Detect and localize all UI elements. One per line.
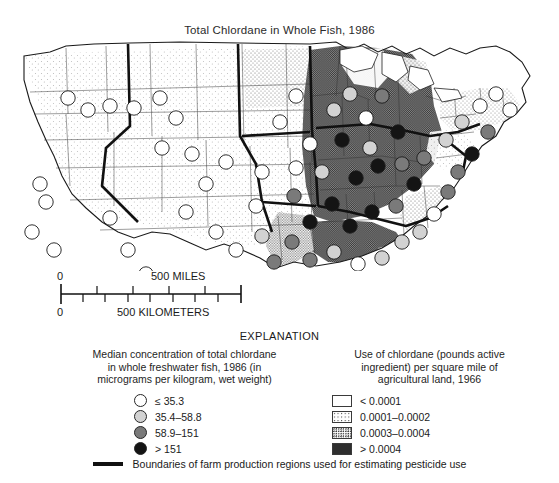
use-pattern-swatch bbox=[332, 443, 352, 455]
concentration-class-label: 35.4–58.8 bbox=[155, 411, 202, 424]
use-pattern-swatch bbox=[332, 427, 352, 439]
scale-km-label: 500 KILOMETERS bbox=[117, 306, 209, 318]
fish-sample-site bbox=[179, 205, 193, 219]
legend-use-row: 0.0001–0.0002 bbox=[322, 409, 537, 425]
fish-sample-site bbox=[363, 141, 377, 155]
fish-sample-site bbox=[169, 111, 183, 125]
fish-sample-site bbox=[343, 219, 357, 233]
legend-concentration-heading-line1: Median concentration of total chlordane bbox=[62, 348, 307, 361]
legend-concentration-heading: Median concentration of total chlordane … bbox=[62, 348, 307, 386]
fish-sample-site bbox=[365, 205, 379, 219]
fish-sample-site bbox=[465, 147, 479, 161]
fish-sample-site bbox=[325, 197, 339, 211]
map-title: Total Chlordane in Whole Fish, 1986 bbox=[0, 24, 559, 36]
fish-sample-site bbox=[439, 133, 453, 147]
fish-sample-site bbox=[287, 189, 301, 203]
fish-sample-site bbox=[199, 177, 213, 191]
fish-sample-site bbox=[33, 177, 47, 191]
fish-sample-site bbox=[47, 243, 61, 257]
fish-sample-site bbox=[103, 211, 117, 225]
fish-sample-site bbox=[255, 165, 269, 179]
fish-sample-site bbox=[451, 165, 465, 179]
fish-sample-site bbox=[489, 87, 503, 101]
fish-sample-site bbox=[185, 147, 199, 161]
legend-concentration-heading-line3: micrograms per kilogram, wet weight) bbox=[62, 373, 307, 386]
us-map bbox=[10, 36, 549, 271]
fish-sample-site bbox=[303, 215, 317, 229]
fish-sample-site bbox=[375, 251, 389, 265]
use-class-label: < 0.0001 bbox=[360, 395, 401, 408]
fish-sample-site bbox=[219, 155, 233, 169]
scale-km-zero: 0 bbox=[57, 306, 63, 318]
fish-sample-site bbox=[155, 141, 169, 155]
concentration-class-label: > 151 bbox=[155, 443, 182, 456]
fish-sample-site bbox=[153, 91, 167, 105]
fish-sample-site bbox=[413, 225, 427, 239]
fish-sample-site bbox=[395, 235, 409, 249]
fish-sample-site bbox=[209, 225, 223, 239]
legend-concentration-row: 35.4–58.8 bbox=[62, 409, 307, 425]
concentration-circle-swatch bbox=[134, 426, 147, 439]
legend-concentration-row: > 151 bbox=[62, 441, 307, 457]
fish-sample-site bbox=[315, 165, 329, 179]
fish-sample-site bbox=[371, 159, 385, 173]
fish-sample-site bbox=[389, 199, 403, 213]
fish-sample-site bbox=[359, 111, 373, 125]
scale-bar: 0 500 MILES 0 500 KILOMETERS bbox=[55, 268, 260, 320]
fish-sample-site bbox=[61, 91, 75, 105]
fish-sample-site bbox=[285, 235, 299, 249]
map-figure: Total Chlordane in Whole Fish, 1986 bbox=[0, 0, 559, 483]
fish-sample-site bbox=[289, 161, 303, 175]
use-pattern-swatch bbox=[332, 395, 352, 407]
concentration-circle-swatch bbox=[134, 442, 147, 455]
fish-sample-site bbox=[249, 199, 263, 213]
fish-sample-site bbox=[327, 245, 341, 259]
fish-sample-site bbox=[121, 243, 135, 257]
fish-sample-site bbox=[351, 257, 365, 271]
farm-region-legend-label: Boundaries of farm production regions us… bbox=[133, 458, 467, 470]
fish-sample-site bbox=[289, 89, 303, 103]
legend-use-row: < 0.0001 bbox=[322, 393, 537, 409]
fish-sample-site bbox=[395, 157, 409, 171]
fish-sample-site bbox=[25, 225, 39, 239]
concentration-class-label: ≤ 35.3 bbox=[155, 395, 184, 408]
use-class-label: 0.0001–0.0002 bbox=[360, 411, 430, 424]
use-class-label: > 0.0004 bbox=[360, 443, 401, 456]
legend-concentration-row: 58.9–151 bbox=[62, 425, 307, 441]
fish-sample-site bbox=[349, 171, 363, 185]
legend-use-heading-line2: ingredient) per square mile of bbox=[322, 361, 537, 374]
use-pattern-swatch bbox=[332, 411, 352, 423]
farm-region-line-swatch bbox=[93, 462, 123, 466]
legend-concentration: Median concentration of total chlordane … bbox=[62, 348, 307, 457]
fish-sample-site bbox=[327, 103, 341, 117]
fish-sample-site bbox=[39, 195, 53, 209]
farm-region-legend: Boundaries of farm production regions us… bbox=[0, 458, 559, 470]
legend-use-items: < 0.00010.0001–0.00020.0003–0.0004> 0.00… bbox=[322, 393, 537, 457]
concentration-circle-swatch bbox=[134, 410, 147, 423]
legend-concentration-items: ≤ 35.335.4–58.858.9–151> 151 bbox=[62, 393, 307, 457]
fish-sample-site bbox=[427, 207, 441, 221]
legend-concentration-row: ≤ 35.3 bbox=[62, 393, 307, 409]
fish-sample-site bbox=[503, 103, 517, 117]
legend-concentration-heading-line2: in whole freshwater fish, 1986 (in bbox=[62, 361, 307, 374]
fish-sample-site bbox=[335, 133, 349, 147]
fish-sample-site bbox=[391, 125, 405, 139]
explanation-heading: EXPLANATION bbox=[0, 330, 559, 342]
fish-sample-site bbox=[303, 253, 317, 267]
fish-sample-site bbox=[81, 103, 95, 117]
fish-sample-site bbox=[343, 87, 357, 101]
fish-sample-site bbox=[127, 101, 141, 115]
concentration-class-label: 58.9–151 bbox=[155, 427, 199, 440]
fish-sample-site bbox=[473, 99, 487, 113]
fish-sample-site bbox=[267, 255, 281, 269]
fish-sample-site bbox=[255, 229, 269, 243]
concentration-circle-swatch bbox=[134, 394, 147, 407]
fish-sample-site bbox=[407, 177, 421, 191]
fish-sample-site bbox=[103, 99, 117, 113]
fish-sample-site bbox=[441, 185, 455, 199]
use-class-label: 0.0003–0.0004 bbox=[360, 427, 430, 440]
legend-use-heading: Use of chlordane (pounds active ingredie… bbox=[322, 348, 537, 386]
legend-use-row: > 0.0004 bbox=[322, 441, 537, 457]
fish-sample-site bbox=[303, 137, 317, 151]
legend-use-heading-line3: agricultural land, 1966 bbox=[322, 373, 537, 386]
